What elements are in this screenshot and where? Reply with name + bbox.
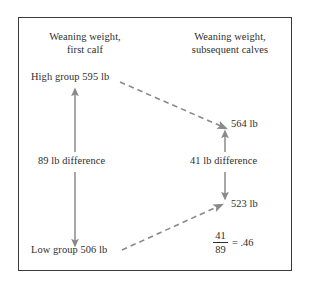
left-difference-label: 89 lb difference xyxy=(35,155,108,168)
column-header-left-line1: Weaning weight, xyxy=(31,30,139,43)
subsequent-low-value-label: 523 lb xyxy=(231,198,258,211)
ratio-equals-value: = .46 xyxy=(232,237,253,248)
ratio-fraction: 41 89 xyxy=(213,230,228,255)
right-difference-label: 41 lb difference xyxy=(187,155,260,168)
column-header-left: Weaning weight, first calf xyxy=(31,30,139,56)
ratio-denominator: 89 xyxy=(213,244,227,255)
column-header-right-line2: subsequent calves xyxy=(175,43,285,56)
ratio-expression: 41 89 = .46 xyxy=(213,230,253,255)
column-header-left-line2: first calf xyxy=(31,43,139,56)
column-header-right: Weaning weight, subsequent calves xyxy=(175,30,285,56)
ratio-numerator: 41 xyxy=(213,230,227,241)
subsequent-high-value-label: 564 lb xyxy=(231,118,258,131)
high-group-label: High group 595 lb xyxy=(31,71,109,84)
low-group-label: Low group 506 lb xyxy=(31,244,107,257)
low-to-523-dashed-arrow xyxy=(122,206,219,250)
high-to-564-dashed-arrow xyxy=(120,82,223,127)
ratio-fraction-bar xyxy=(213,242,228,243)
regression-diagram: Weaning weight, first calf Weaning weigh… xyxy=(0,0,311,289)
column-header-right-line1: Weaning weight, xyxy=(175,30,285,43)
